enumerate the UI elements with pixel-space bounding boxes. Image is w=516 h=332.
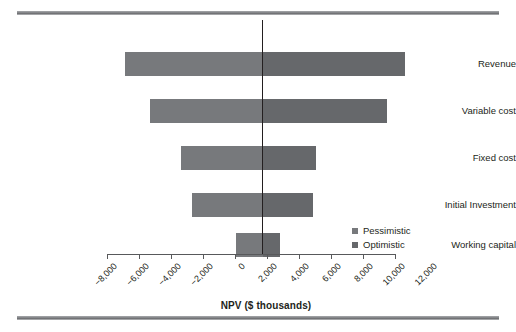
category-label-variable-cost: Variable cost (416, 106, 516, 116)
x-axis-tick (107, 254, 108, 259)
legend-swatch-icon (352, 242, 358, 248)
bar-row (150, 99, 387, 123)
bar-row (192, 193, 313, 217)
bar-segment-optimistic (263, 146, 316, 170)
base-case-reference-line (262, 20, 263, 254)
bar-segment-pessimistic (192, 193, 263, 217)
x-axis-tick (363, 254, 364, 259)
x-axis-tick (203, 254, 204, 259)
decorative-rule-top (17, 11, 499, 15)
x-axis-title-text: NPV ($ thousands) (221, 300, 312, 311)
legend-label: Optimistic (363, 240, 405, 250)
bar-segment-optimistic (263, 99, 387, 123)
category-label-working-capital: Working capital (416, 240, 516, 250)
legend-item-pessimistic[interactable]: Pessimistic (352, 224, 411, 237)
chart-legend: Pessimistic Optimistic (352, 224, 411, 252)
bar-row (181, 146, 316, 170)
bar-segment-pessimistic (125, 52, 263, 76)
x-axis-tick (299, 254, 300, 259)
x-axis-tick-label: −8,000 (33, 261, 119, 332)
legend-swatch-icon (352, 228, 358, 234)
bar-segment-optimistic (263, 193, 313, 217)
tornado-chart: Revenue Variable cost Fixed cost Initial… (0, 18, 516, 314)
bar-segment-pessimistic (181, 146, 263, 170)
bar-segment-pessimistic (150, 99, 263, 123)
x-axis-tick (235, 254, 236, 259)
plot-area: Revenue Variable cost Fixed cost Initial… (0, 18, 516, 254)
category-label-fixed-cost: Fixed cost (416, 153, 516, 163)
x-axis-tick (331, 254, 332, 259)
category-label-revenue: Revenue (416, 59, 516, 69)
category-label-initial-investment: Initial Investment (416, 200, 516, 210)
legend-item-optimistic[interactable]: Optimistic (352, 238, 411, 251)
x-axis-tick (395, 254, 396, 259)
x-axis-tick (171, 254, 172, 259)
x-axis-tick (267, 254, 268, 259)
legend-label: Pessimistic (363, 226, 411, 236)
x-axis-title: NPV ($ thousands) (0, 300, 516, 311)
bar-row (125, 52, 405, 76)
bar-segment-optimistic (263, 52, 405, 76)
x-axis-line (107, 254, 395, 255)
x-axis-tick (139, 254, 140, 259)
